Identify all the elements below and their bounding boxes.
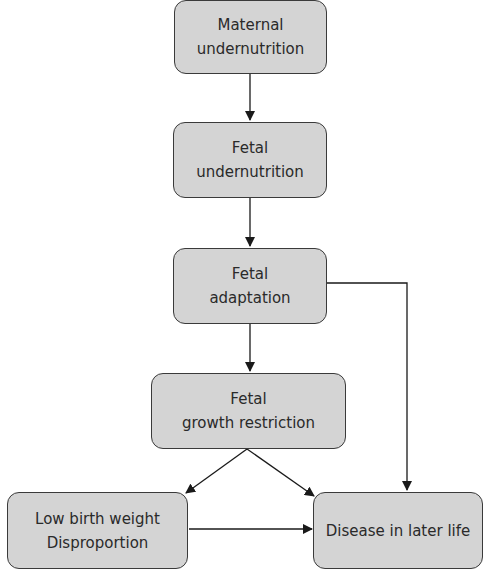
node-label: Disease in later life: [326, 519, 470, 543]
node-fetal-adaptation: Fetal adaptation: [173, 248, 327, 324]
node-label: growth restriction: [182, 411, 315, 435]
node-fetal-undernutrition: Fetal undernutrition: [173, 122, 327, 198]
node-label: adaptation: [209, 286, 290, 310]
node-label: Low birth weight: [35, 507, 160, 531]
node-maternal-undernutrition: Maternal undernutrition: [174, 0, 327, 74]
arrow-growth-restriction-to-low-birth-weight: [186, 449, 247, 493]
node-fetal-growth-restriction: Fetal growth restriction: [151, 373, 346, 449]
node-label: Fetal: [232, 262, 268, 286]
node-disease-later-life: Disease in later life: [313, 492, 483, 569]
node-label: undernutrition: [196, 160, 304, 184]
node-label: Maternal: [217, 13, 283, 37]
node-label: Fetal: [230, 387, 266, 411]
node-low-birth-weight: Low birth weight Disproportion: [7, 492, 188, 569]
node-label: Disproportion: [47, 531, 149, 555]
node-label: Fetal: [232, 136, 268, 160]
node-label: undernutrition: [197, 37, 305, 61]
arrow-growth-restriction-to-disease: [247, 449, 314, 496]
